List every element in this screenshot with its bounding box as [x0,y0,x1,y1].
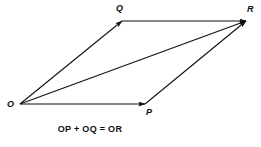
vertex-label-p: P [146,108,152,117]
vertex-label-q: Q [116,4,123,13]
equation-caption: OP + OQ = OR [0,125,180,134]
vector-line-or [20,21,246,104]
vertex-label-r: R [247,5,254,14]
vector-diagram-figure: O Q R P OP + OQ = OR [0,0,261,147]
vector-line-oq [20,21,122,104]
vector-line-pr [145,21,246,104]
vertex-label-o: O [7,100,14,109]
